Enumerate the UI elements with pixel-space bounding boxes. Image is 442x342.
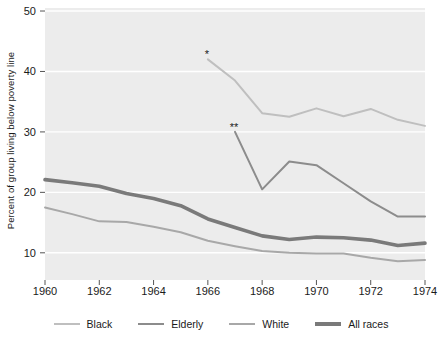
y-tick-label-10: 10 bbox=[24, 247, 36, 258]
legend-item-black[interactable]: Black bbox=[54, 319, 113, 330]
x-tick-label-1966: 1966 bbox=[196, 286, 220, 297]
black-start-marker: * bbox=[205, 48, 210, 60]
elderly-start-marker: ** bbox=[230, 121, 239, 133]
x-tick-label-1970: 1970 bbox=[304, 286, 328, 297]
x-tick-label-1968: 1968 bbox=[250, 286, 274, 297]
x-axis-tick-labels: 19601962196419661968197019721974 bbox=[0, 286, 442, 302]
y-tick-label-50: 50 bbox=[24, 6, 36, 17]
legend-label-all-races: All races bbox=[348, 319, 388, 330]
x-tick-label-1962: 1962 bbox=[87, 286, 111, 297]
poverty-line-chart: Percent of group living below poverty li… bbox=[0, 0, 442, 342]
legend-label-elderly: Elderly bbox=[171, 319, 203, 330]
legend-label-white: White bbox=[262, 319, 289, 330]
x-tick-label-1972: 1972 bbox=[358, 286, 382, 297]
x-tick-label-1960: 1960 bbox=[33, 286, 57, 297]
legend-item-white[interactable]: White bbox=[229, 319, 289, 330]
y-tick-label-40: 40 bbox=[24, 66, 36, 77]
y-tick-label-20: 20 bbox=[24, 187, 36, 198]
legend-swatch-white bbox=[229, 323, 255, 325]
legend-item-all-races[interactable]: All races bbox=[315, 319, 388, 330]
legend-swatch-elderly bbox=[138, 323, 164, 325]
legend-item-elderly[interactable]: Elderly bbox=[138, 319, 203, 330]
legend-label-black: Black bbox=[87, 319, 113, 330]
y-axis-tick-labels: 1020304050 bbox=[4, 0, 36, 280]
x-tick-label-1964: 1964 bbox=[141, 286, 165, 297]
chart-legend: BlackElderlyWhiteAll races bbox=[0, 312, 442, 336]
legend-swatch-all-races bbox=[315, 322, 341, 326]
y-tick-label-30: 30 bbox=[24, 126, 36, 137]
legend-swatch-black bbox=[54, 323, 80, 325]
x-tick-label-1974: 1974 bbox=[413, 286, 437, 297]
